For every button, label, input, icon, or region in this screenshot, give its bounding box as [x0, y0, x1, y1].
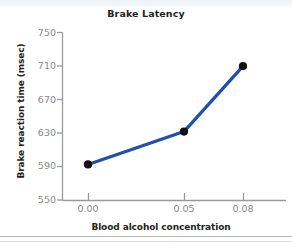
footer-divider — [0, 236, 292, 237]
footer-divider-secondary — [0, 241, 292, 242]
data-point-marker — [180, 128, 188, 136]
plot-area — [0, 0, 292, 245]
chart-figure: Brake Latency Brake reaction time (msec)… — [0, 0, 292, 245]
data-point-marker — [239, 62, 247, 70]
data-point-marker — [84, 160, 92, 168]
data-series-line — [88, 66, 243, 164]
